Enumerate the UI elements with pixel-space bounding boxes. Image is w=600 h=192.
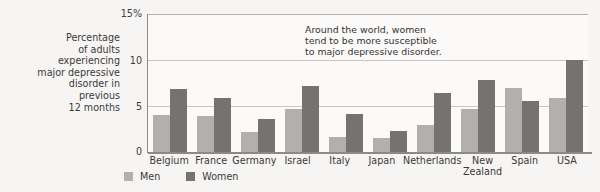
- bar-women: [390, 131, 407, 152]
- x-tick-label: Japan: [361, 155, 403, 178]
- y-tick-label-0: 0: [108, 146, 142, 157]
- y-tick-label-10: 10: [108, 55, 142, 66]
- x-tick-label: Spain: [504, 155, 546, 178]
- bar-women: [302, 86, 319, 152]
- bar-men: [241, 132, 258, 152]
- y-tick-label-5: 5: [108, 101, 142, 112]
- x-tick-label: USA: [546, 155, 588, 178]
- bar-men: [417, 125, 434, 152]
- bar-group: [500, 14, 544, 152]
- legend-item-men: Men: [124, 171, 160, 182]
- bar-women: [214, 98, 231, 152]
- bar-men: [505, 88, 522, 152]
- legend-item-women: Women: [186, 171, 238, 182]
- bar-women: [522, 101, 539, 152]
- x-tick-label: Netherlands: [403, 155, 461, 178]
- y-tick-label-15: 15%: [108, 8, 142, 19]
- bar-chart-figure: Percentage of adults experiencing major …: [0, 0, 600, 192]
- bar-group: [544, 14, 588, 152]
- bar-women: [258, 119, 275, 152]
- legend-label: Women: [202, 171, 238, 182]
- bar-men: [373, 138, 390, 152]
- chart-legend: MenWomen: [124, 171, 238, 182]
- bar-men: [329, 137, 346, 152]
- x-tick-label: New Zealand: [461, 155, 503, 178]
- women-swatch: [186, 172, 195, 181]
- bar-women: [346, 114, 363, 152]
- bar-group: [456, 14, 500, 152]
- y-axis-label: Percentage of adults experiencing major …: [14, 32, 120, 113]
- bar-group: [148, 14, 192, 152]
- bar-group: [192, 14, 236, 152]
- bar-men: [197, 116, 214, 152]
- bar-men: [549, 98, 566, 152]
- x-axis-line: [148, 152, 592, 154]
- x-tick-label: Israel: [276, 155, 318, 178]
- legend-label: Men: [140, 171, 160, 182]
- bar-women: [566, 60, 583, 152]
- bar-men: [461, 109, 478, 152]
- bar-women: [434, 93, 451, 152]
- chart-annotation: Around the world, women tend to be more …: [305, 24, 442, 58]
- bar-men: [153, 115, 170, 152]
- men-swatch: [124, 172, 133, 181]
- bar-women: [170, 89, 187, 152]
- x-tick-label: Italy: [319, 155, 361, 178]
- bar-group: [236, 14, 280, 152]
- bar-women: [478, 80, 495, 152]
- bar-men: [285, 109, 302, 152]
- x-tick-label: Germany: [232, 155, 276, 178]
